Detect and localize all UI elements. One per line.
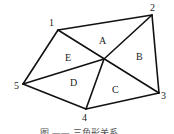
edge-3-4 xyxy=(86,93,159,109)
triangulation-diagram: 1 2 3 4 5 A B C D E xyxy=(0,0,174,134)
region-label-a: A xyxy=(99,35,107,46)
inner-edges xyxy=(23,15,159,109)
region-label-d: D xyxy=(70,77,77,88)
edge-5-1 xyxy=(23,30,58,84)
region-labels: A B C D E xyxy=(65,35,143,95)
region-label-c: C xyxy=(112,84,119,95)
edge-center-4 xyxy=(86,59,104,109)
vertex-label-1: 1 xyxy=(49,17,54,28)
figure-caption: 图 —— 三角形关系 xyxy=(40,126,150,134)
vertex-label-5: 5 xyxy=(14,80,19,91)
vertex-label-4: 4 xyxy=(82,112,87,123)
vertex-label-3: 3 xyxy=(161,90,166,101)
region-label-e: E xyxy=(65,52,71,63)
region-label-b: B xyxy=(136,51,143,62)
edge-center-5 xyxy=(23,59,104,84)
vertex-label-2: 2 xyxy=(150,2,155,13)
edge-2-3 xyxy=(152,15,159,93)
